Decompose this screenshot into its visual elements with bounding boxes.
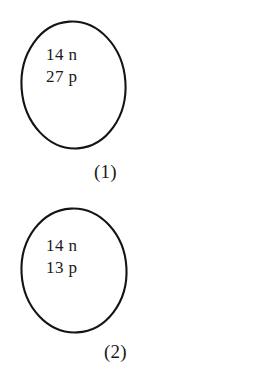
proton-count-1: 27 p bbox=[46, 66, 77, 88]
figure-label-2: (2) bbox=[104, 341, 127, 363]
proton-count-2: 13 p bbox=[46, 257, 77, 279]
neutron-count-2: 14 n bbox=[46, 235, 77, 257]
nucleus-composition-1: 14 n 27 p bbox=[46, 44, 77, 88]
neutron-count-1: 14 n bbox=[46, 44, 77, 66]
nucleus-composition-2: 14 n 13 p bbox=[46, 235, 77, 279]
diagram-canvas: 14 n 27 p (1) 14 n 13 p (2) bbox=[0, 0, 257, 377]
nucleus-diagram-1: 14 n 27 p bbox=[20, 20, 127, 150]
nucleus-diagram-2: 14 n 13 p bbox=[20, 207, 128, 334]
figure-label-1: (1) bbox=[94, 161, 117, 183]
